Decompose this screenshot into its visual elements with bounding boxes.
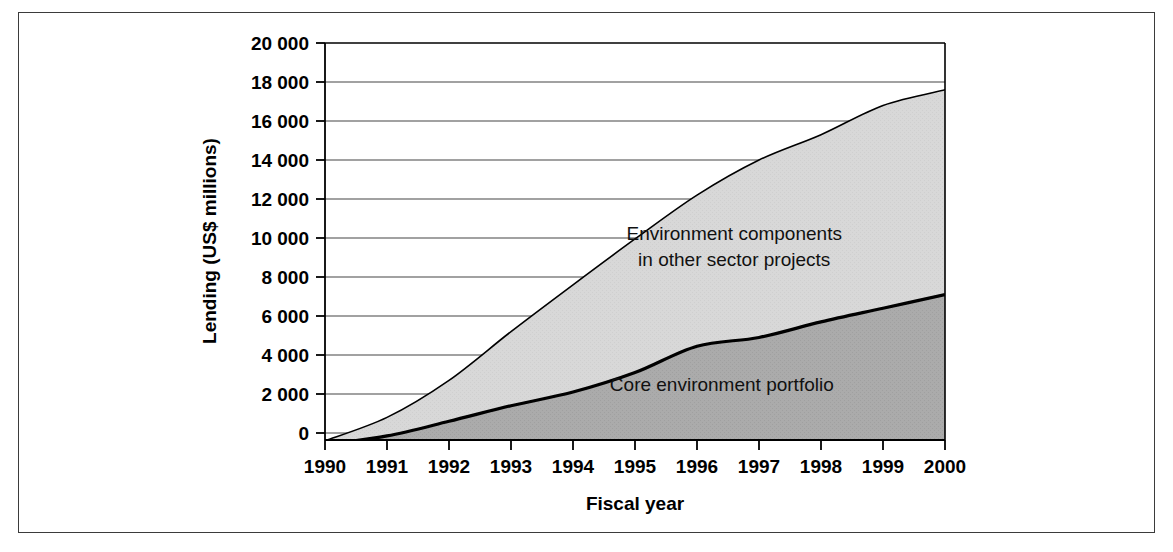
y-tick-label: 0	[298, 423, 309, 444]
x-tick-label: 1994	[552, 456, 595, 477]
x-tick-label: 1996	[676, 456, 718, 477]
x-tick-label: 1995	[614, 456, 657, 477]
annotation-line: in other sector projects	[638, 249, 830, 270]
y-tick-label: 6 000	[261, 306, 309, 327]
y-tick-label: 2 000	[261, 384, 309, 405]
x-tick-label: 1992	[428, 456, 470, 477]
figure-canvas: 02 0004 0006 0008 00010 00012 00014 0001…	[0, 0, 1173, 552]
x-tick-label: 1998	[800, 456, 842, 477]
x-tick-label: 1993	[490, 456, 532, 477]
lower-band-label: Core environment portfolio	[610, 374, 834, 395]
y-tick-label: 4 000	[261, 345, 309, 366]
area-chart: 02 0004 0006 0008 00010 00012 00014 0001…	[0, 0, 1173, 552]
y-tick-label: 18 000	[251, 72, 309, 93]
annotation-line: Core environment portfolio	[610, 374, 834, 395]
x-tick-labels: 1990199119921993199419951996199719981999…	[304, 456, 966, 477]
x-tick-label: 2000	[924, 456, 966, 477]
annotation-line: Environment components	[626, 223, 841, 244]
x-axis-title: Fiscal year	[586, 493, 685, 514]
y-axis-title: Lending (US$ millions)	[199, 138, 220, 344]
x-tick-label: 1991	[366, 456, 409, 477]
y-tick-marks	[316, 43, 325, 433]
y-tick-label: 14 000	[251, 150, 309, 171]
x-tick-label: 1990	[304, 456, 346, 477]
y-tick-label: 8 000	[261, 267, 309, 288]
y-tick-label: 12 000	[251, 189, 309, 210]
y-tick-labels: 02 0004 0006 0008 00010 00012 00014 0001…	[251, 33, 309, 444]
x-tick-marks	[325, 440, 945, 450]
x-tick-label: 1999	[862, 456, 904, 477]
y-tick-label: 20 000	[251, 33, 309, 54]
y-tick-label: 10 000	[251, 228, 309, 249]
y-tick-label: 16 000	[251, 111, 309, 132]
x-tick-label: 1997	[738, 456, 780, 477]
